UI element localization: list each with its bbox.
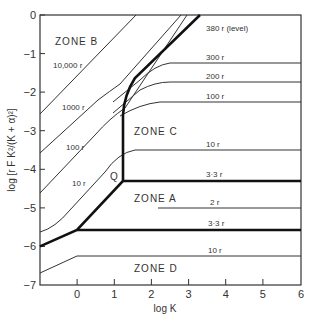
label-300r: 300 r xyxy=(206,53,225,62)
zone-d-label: ZONE D xyxy=(134,263,178,274)
x-tick-label: 0 xyxy=(74,288,80,300)
label-1000r: 1000 r xyxy=(62,103,85,112)
y-tick-label: −1 xyxy=(23,48,36,60)
y-tick-label: −4 xyxy=(23,163,36,175)
label-380r: 380 r (level) xyxy=(206,24,249,33)
point-q-label: Q xyxy=(110,171,119,182)
curve-100r-level xyxy=(120,102,301,116)
x-tick-label: 6 xyxy=(298,288,304,300)
zone-a-label: ZONE A xyxy=(134,193,177,204)
label-2r: 2 r xyxy=(210,198,220,207)
x-tick-label: 3 xyxy=(186,288,192,300)
y-axis-title: log [r F K²/(K + α)²] xyxy=(6,108,17,192)
zone-b-label: ZONE B xyxy=(55,36,98,47)
x-tick-label: 1 xyxy=(111,288,117,300)
y-tick-label: 0 xyxy=(30,9,36,21)
label-3-3r-lower: 3·3 r xyxy=(208,219,225,228)
x-tick-label: 4 xyxy=(223,288,229,300)
label-10r-left: 10 r xyxy=(72,179,86,188)
y-tick-label: −3 xyxy=(23,125,36,137)
label-3-3r-upper: 3·3 r xyxy=(206,170,223,179)
curve-10r xyxy=(40,150,301,232)
label-10r-right: 10 r xyxy=(206,140,220,149)
y-tick-label: −2 xyxy=(23,86,36,98)
x-tick-label: 5 xyxy=(260,288,266,300)
y-tick-label: −5 xyxy=(23,202,36,214)
label-10000r: 10,000 r xyxy=(53,61,83,70)
label-100r-right: 100 r xyxy=(206,92,225,101)
y-axis: 0 −1 −2 −3 −4 −5 −6 −7 log [r F K²/(K + … xyxy=(6,9,45,291)
x-tick-label: 2 xyxy=(148,288,154,300)
zone-chart: 0 −1 −2 −3 −4 −5 −6 −7 log [r F K²/(K + … xyxy=(0,0,315,320)
zone-c-label: ZONE C xyxy=(134,126,178,137)
x-axis: 0 1 2 3 4 5 6 log K xyxy=(74,279,304,314)
label-10r-low: 10 r xyxy=(208,246,222,255)
x-axis-title: log K xyxy=(154,303,177,314)
y-tick-label: −6 xyxy=(23,240,36,252)
label-200r: 200 r xyxy=(206,72,225,81)
label-100r-left: 100 r xyxy=(66,143,85,152)
y-tick-label: −7 xyxy=(23,279,36,291)
